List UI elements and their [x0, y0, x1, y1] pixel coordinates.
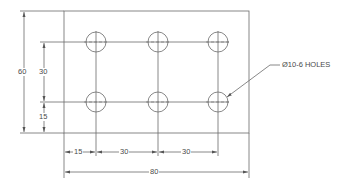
plate-outline — [64, 11, 249, 133]
hole-callout-text: Ø10-6 HOLES — [281, 61, 331, 69]
hole-callout-leader — [227, 65, 280, 97]
dim-bottom-row-offset: 15 — [38, 113, 48, 121]
dim-overall-height: 60 — [17, 68, 27, 76]
dim-col-spacing-1: 30 — [119, 148, 129, 156]
dim-overall-width: 80 — [149, 168, 159, 176]
hole-group — [86, 32, 228, 112]
dim-row-spacing: 30 — [38, 68, 48, 76]
dim-first-col-offset: 15 — [73, 148, 83, 156]
technical-drawing — [0, 0, 343, 184]
dim-col-spacing-2: 30 — [181, 148, 191, 156]
